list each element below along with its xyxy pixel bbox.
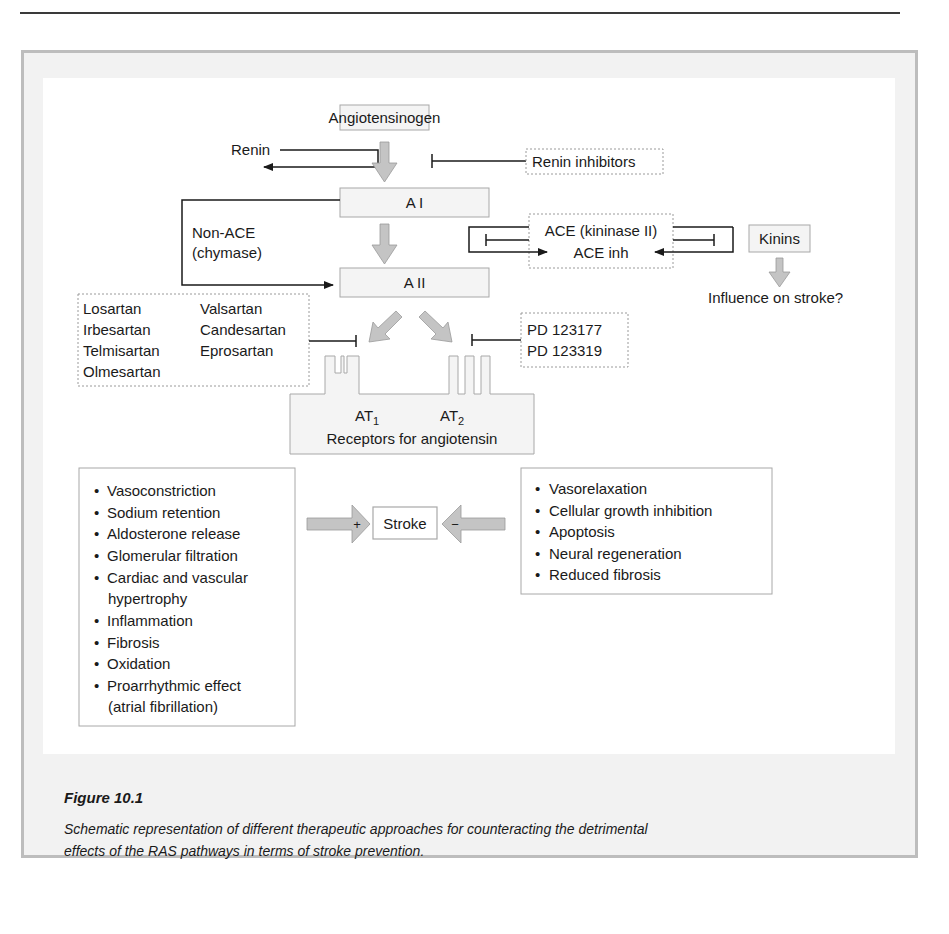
at1-effect: •Inflammation bbox=[94, 612, 193, 629]
at2-effect: •Vasorelaxation bbox=[535, 480, 647, 497]
at2-blocker: PD 123177 bbox=[527, 321, 602, 338]
stroke-group: + Stroke − bbox=[307, 505, 505, 543]
at2-blockers-group: PD 123177 PD 123319 bbox=[472, 313, 628, 367]
arb-drug: Valsartan bbox=[200, 300, 262, 317]
non-ace-arrow bbox=[182, 200, 340, 285]
diagonal-arrow-icon bbox=[369, 311, 402, 342]
a2-to-receptors-arrows bbox=[369, 311, 452, 342]
at1-effect: •Vasoconstriction bbox=[94, 482, 216, 499]
arb-drug: Telmisartan bbox=[83, 342, 160, 359]
figure-caption: Schematic representation of different th… bbox=[64, 818, 864, 862]
non-ace-label: Non-ACE bbox=[192, 224, 255, 241]
a2-label: A II bbox=[404, 274, 426, 291]
kinins-group: Kinins Influence on stroke? bbox=[708, 225, 843, 306]
arb-drug: Irbesartan bbox=[83, 321, 151, 338]
plus-sign: + bbox=[353, 517, 361, 532]
angiotensinogen-node: Angiotensinogen bbox=[329, 105, 441, 130]
figure-label: Figure 10.1 bbox=[64, 789, 143, 806]
caption-line: effects of the RAS pathways in terms of … bbox=[64, 840, 864, 862]
at2-effects-box: •Vasorelaxation •Cellular growth inhibit… bbox=[521, 468, 772, 594]
chymase-label: (chymase) bbox=[192, 244, 262, 261]
at2-effect: •Neural regeneration bbox=[535, 545, 682, 562]
angiotensin-i-node: A I bbox=[340, 188, 489, 217]
arb-drug: Losartan bbox=[83, 300, 141, 317]
at2-blocker: PD 123319 bbox=[527, 342, 602, 359]
at2-effect: •Cellular growth inhibition bbox=[535, 502, 712, 519]
kinins-label: Kinins bbox=[759, 230, 800, 247]
at1-effect: •Sodium retention bbox=[94, 504, 220, 521]
down-arrow-icon bbox=[372, 142, 397, 182]
at1-effect: •Glomerular filtration bbox=[94, 547, 238, 564]
stroke-label: Stroke bbox=[383, 515, 426, 532]
arb-drug: Olmesartan bbox=[83, 363, 161, 380]
arb-drug: Candesartan bbox=[200, 321, 286, 338]
arb-drugs-group: Losartan Irbesartan Telmisartan Olmesart… bbox=[78, 294, 356, 386]
minus-sign: − bbox=[451, 517, 459, 532]
non-ace-pathway: Non-ACE (chymase) bbox=[182, 200, 340, 285]
renin-inhibitors-group: Renin inhibitors bbox=[432, 149, 663, 174]
down-arrow-icon bbox=[769, 258, 790, 287]
influence-label: Influence on stroke? bbox=[708, 289, 843, 306]
at1-effects-box: •Vasoconstriction •Sodium retention •Ald… bbox=[79, 468, 295, 726]
renin-inhibitors-label: Renin inhibitors bbox=[532, 153, 635, 170]
ace-inh-label: ACE inh bbox=[573, 244, 628, 261]
arb-drug: Eprosartan bbox=[200, 342, 273, 359]
ace-label: ACE (kininase II) bbox=[545, 222, 658, 239]
at1-effect-continuation: hypertrophy bbox=[108, 590, 188, 607]
diagonal-arrow-icon bbox=[419, 311, 452, 342]
receptors-label: Receptors for angiotensin bbox=[327, 430, 498, 447]
caption-line: Schematic representation of different th… bbox=[64, 818, 864, 840]
renin-arrow bbox=[264, 150, 378, 167]
down-arrow-icon bbox=[372, 224, 397, 264]
at2-effect: •Reduced fibrosis bbox=[535, 566, 661, 583]
receptors-node: AT1 AT2 Receptors for angiotensin bbox=[290, 356, 534, 454]
at1-effect: •Aldosterone release bbox=[94, 525, 240, 542]
renin-branch: Renin bbox=[231, 141, 378, 167]
ace-group: ACE (kininase II) ACE inh bbox=[469, 214, 733, 268]
renin-label: Renin bbox=[231, 141, 270, 158]
at1-effect: •Proarrhythmic effect bbox=[94, 677, 242, 694]
angiotensin-ii-node: A II bbox=[340, 268, 489, 297]
angiotensinogen-label: Angiotensinogen bbox=[329, 109, 441, 126]
at1-effect-continuation: (atrial fibrillation) bbox=[108, 698, 218, 715]
a1-label: A I bbox=[406, 194, 424, 211]
at1-effect: •Cardiac and vascular bbox=[94, 569, 248, 586]
